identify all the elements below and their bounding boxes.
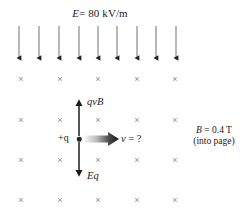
electric-force-label: Eq [87, 170, 99, 181]
magnetic-field-label: B = 0.4 T (into page) [182, 126, 246, 147]
cross-mark: × [172, 116, 177, 125]
velocity-arrow [85, 132, 119, 146]
velocity-label: v = ? [121, 133, 142, 144]
charge-dot [77, 137, 82, 142]
cross-mark: × [134, 116, 139, 125]
cross-mark: × [18, 156, 23, 165]
magnetic-force-label: qvB [87, 96, 103, 107]
cross-mark: × [57, 196, 62, 205]
cross-mark: × [95, 75, 100, 84]
magnetic-field-symbol: B [196, 125, 202, 135]
cross-mark: × [18, 75, 23, 84]
cross-mark: × [134, 75, 139, 84]
cross-mark: × [57, 75, 62, 84]
charge-label: +q [58, 133, 69, 144]
cross-mark: × [134, 196, 139, 205]
cross-mark: × [57, 156, 62, 165]
cross-mark: × [172, 75, 177, 84]
magnetic-field-value: = 0.4 T [204, 125, 232, 135]
magnetic-field-line1: B = 0.4 T [196, 125, 232, 135]
cross-mark: × [134, 156, 139, 165]
velocity-symbol: v [121, 133, 126, 144]
cross-mark: × [57, 116, 62, 125]
cross-mark: × [172, 156, 177, 165]
cross-mark: × [18, 196, 23, 205]
physics-figure: E= 80 kV/m [0, 0, 247, 216]
vector-layer [0, 0, 247, 216]
cross-mark: × [95, 156, 100, 165]
electric-field-arrow-group [19, 26, 176, 58]
cross-mark: × [95, 196, 100, 205]
magnetic-field-direction: (into page) [182, 137, 246, 147]
velocity-question: = ? [128, 133, 141, 144]
cross-mark: × [172, 196, 177, 205]
cross-mark: × [95, 116, 100, 125]
cross-mark: × [18, 116, 23, 125]
